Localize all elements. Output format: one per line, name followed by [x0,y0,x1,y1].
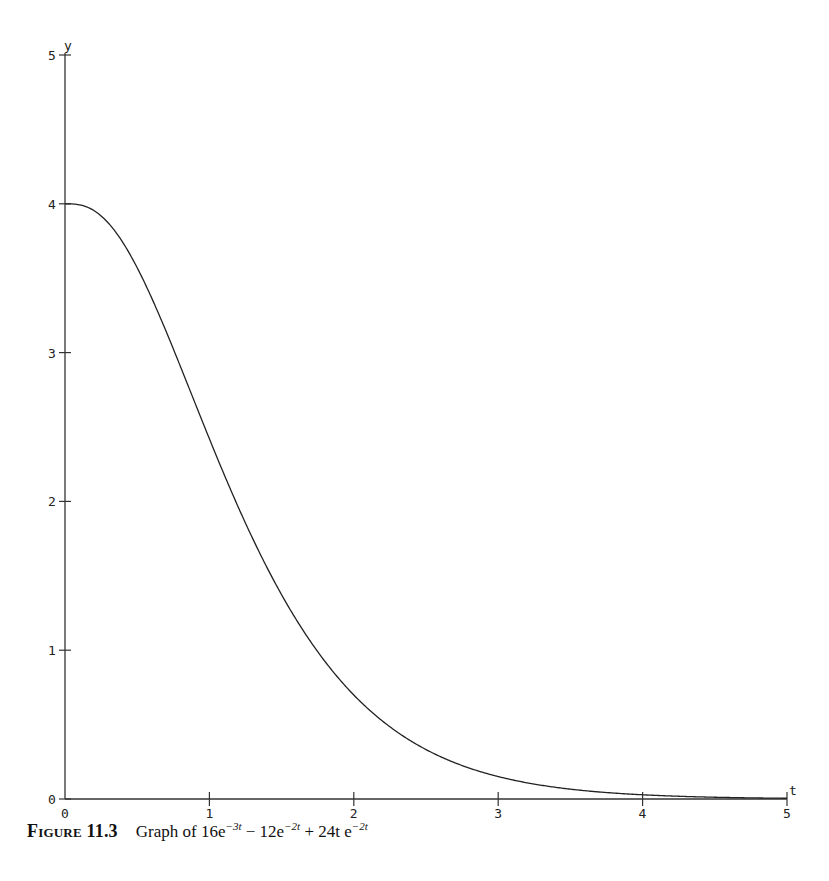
y-axis-label: y [64,38,72,53]
ticks: 012345012345 [48,48,791,821]
y-tick-label: 4 [48,197,56,212]
chart-plot-area: 012345012345 y t [0,0,829,881]
y-tick-label: 3 [48,346,56,361]
x-tick-label: 5 [783,806,791,821]
y-tick-label: 2 [48,494,56,509]
y-tick-label: 0 [48,792,56,807]
x-tick-label: 3 [494,806,502,821]
figure-caption: Figure 11.3Graph of 16e−3t − 12e−2t + 24… [27,820,368,842]
x-axis-label: t [789,783,797,798]
y-tick-label: 5 [48,48,56,63]
figure-label: Figure 11.3 [27,821,118,841]
x-tick-label: 1 [205,806,213,821]
x-tick-label: 2 [350,806,358,821]
axes [65,53,787,799]
caption-formula: 16e−3t − 12e−2t + 24t e−2t [201,822,368,841]
function-curve [65,204,787,798]
y-tick-label: 1 [48,643,56,658]
x-tick-label: 4 [639,806,647,821]
caption-text: Graph of [136,822,197,841]
x-tick-label: 0 [61,806,69,821]
